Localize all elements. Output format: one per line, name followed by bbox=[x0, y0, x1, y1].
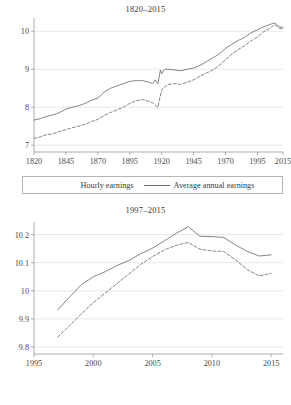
legend-top: Hourly earnings Average annual earnings bbox=[22, 176, 283, 194]
svg-text:9.8: 9.8 bbox=[19, 343, 29, 352]
svg-text:1970: 1970 bbox=[217, 157, 233, 166]
svg-text:1820: 1820 bbox=[26, 157, 42, 166]
svg-text:1895: 1895 bbox=[122, 157, 138, 166]
svg-text:1870: 1870 bbox=[90, 157, 106, 166]
svg-text:1920: 1920 bbox=[154, 157, 170, 166]
svg-text:9: 9 bbox=[25, 65, 29, 74]
svg-text:9.9: 9.9 bbox=[19, 315, 29, 324]
legend-entry-annual: Average annual earnings bbox=[144, 181, 255, 190]
svg-text:2015: 2015 bbox=[263, 359, 279, 368]
svg-text:2010: 2010 bbox=[204, 359, 220, 368]
legend-entry-hourly: Hourly earnings bbox=[51, 181, 134, 190]
legend-label-annual: Average annual earnings bbox=[174, 181, 255, 190]
svg-text:7: 7 bbox=[25, 141, 29, 150]
svg-text:10.1: 10.1 bbox=[15, 259, 29, 268]
series-line-annual bbox=[58, 227, 271, 310]
series-line-hourly bbox=[58, 243, 271, 338]
svg-text:2005: 2005 bbox=[144, 359, 160, 368]
svg-text:10: 10 bbox=[21, 287, 29, 296]
svg-text:2000: 2000 bbox=[85, 359, 101, 368]
svg-text:1995: 1995 bbox=[249, 157, 265, 166]
chart-panel-1820-2015: 1820–2015 789101820184518701895192019451… bbox=[0, 0, 291, 200]
svg-text:8: 8 bbox=[25, 103, 29, 112]
earnings-figure: 1820–2015 789101820184518701895192019451… bbox=[0, 0, 291, 405]
svg-text:1995: 1995 bbox=[26, 359, 42, 368]
svg-text:1945: 1945 bbox=[185, 157, 201, 166]
svg-text:2015: 2015 bbox=[275, 157, 291, 166]
chart-panel-1997-2015: 1997–2015 9.89.91010.110.219952000200520… bbox=[0, 200, 291, 405]
dashed-line-swatch bbox=[51, 185, 77, 186]
svg-text:10: 10 bbox=[21, 27, 29, 36]
svg-text:1845: 1845 bbox=[58, 157, 74, 166]
solid-line-swatch bbox=[144, 185, 170, 186]
legend-label-hourly: Hourly earnings bbox=[81, 181, 134, 190]
plot-area-top: 7891018201845187018951920194519701995201… bbox=[0, 0, 291, 176]
plot-area-bottom: 9.89.91010.110.219952000200520102015 bbox=[0, 200, 291, 380]
svg-text:10.2: 10.2 bbox=[15, 231, 29, 240]
